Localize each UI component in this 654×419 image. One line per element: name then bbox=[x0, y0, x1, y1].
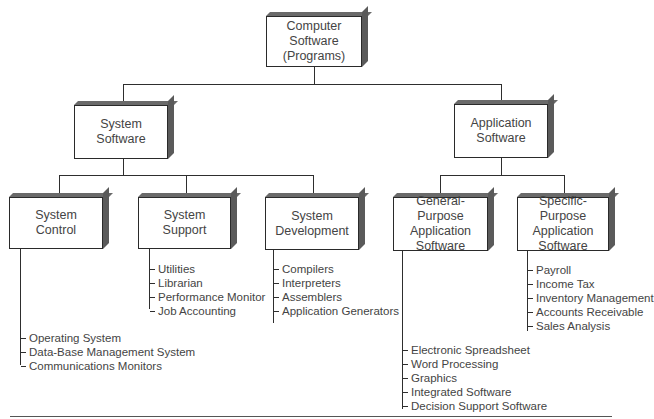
node-computer-software: Computer Software (Programs) bbox=[266, 16, 362, 67]
list-item: Decision Support Software bbox=[403, 399, 547, 413]
node-label: Computer Software (Programs) bbox=[283, 19, 346, 64]
list-item: Data-Base Management System bbox=[21, 345, 195, 359]
list-item: Integrated Software bbox=[403, 385, 547, 399]
list-item: Income Tax bbox=[528, 277, 654, 291]
list-item: Utilities bbox=[150, 262, 265, 276]
list-item: Compilers bbox=[274, 262, 399, 276]
connector bbox=[440, 175, 565, 176]
list-item: Graphics bbox=[403, 371, 547, 385]
system-support-list: Utilities Librarian Performance Monitor … bbox=[150, 262, 265, 318]
list-item: Operating System bbox=[21, 331, 195, 345]
list-item: Interpreters bbox=[274, 276, 399, 290]
list-item: Sales Analysis bbox=[528, 319, 654, 333]
node-label: Specific-Purpose Application Software bbox=[518, 194, 608, 254]
list-item: Application Generators bbox=[274, 304, 399, 318]
connector bbox=[123, 84, 502, 85]
list-item: Accounts Receivable bbox=[528, 305, 654, 319]
node-system-development: System Development bbox=[265, 197, 359, 250]
node-general-purpose: General-Purpose Application Software bbox=[393, 197, 488, 251]
node-label: System Development bbox=[275, 209, 349, 239]
list-item: Assemblers bbox=[274, 290, 399, 304]
list-item: Inventory Management bbox=[528, 291, 654, 305]
system-development-list: Compilers Interpreters Assemblers Applic… bbox=[274, 262, 399, 318]
node-specific-purpose: Specific-Purpose Application Software bbox=[517, 197, 609, 251]
list-item: Electronic Spreadsheet bbox=[403, 343, 547, 357]
node-application-software: Application Software bbox=[454, 104, 548, 158]
connector bbox=[123, 158, 124, 175]
system-control-list: Operating System Data-Base Management Sy… bbox=[21, 331, 195, 373]
node-label: System Software bbox=[96, 117, 145, 147]
node-system-software: System Software bbox=[74, 105, 168, 159]
list-item: Job Accounting bbox=[150, 304, 265, 318]
bottom-rule bbox=[10, 416, 612, 417]
connector bbox=[501, 158, 502, 175]
list-item: Librarian bbox=[150, 276, 265, 290]
node-label: System Control bbox=[35, 208, 77, 238]
node-system-support: System Support bbox=[138, 197, 231, 249]
list-item: Payroll bbox=[528, 263, 654, 277]
connector bbox=[314, 66, 315, 84]
general-purpose-list: Electronic Spreadsheet Word Processing G… bbox=[403, 343, 547, 413]
node-label: Application Software bbox=[470, 116, 531, 146]
node-label: System Support bbox=[163, 208, 207, 238]
list-item: Communications Monitors bbox=[21, 359, 195, 373]
list-item: Word Processing bbox=[403, 357, 547, 371]
list-item: Performance Monitor bbox=[150, 290, 265, 304]
node-label: General-Purpose Application Software bbox=[394, 194, 487, 254]
specific-purpose-list: Payroll Income Tax Inventory Management … bbox=[528, 263, 654, 333]
node-system-control: System Control bbox=[9, 197, 103, 249]
